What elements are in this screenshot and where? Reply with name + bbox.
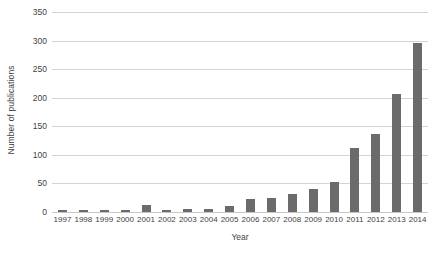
bar-slot <box>198 12 219 212</box>
bar-chart: Number of publications 05010015020025030… <box>0 0 436 258</box>
x-axis-tick-label: 2011 <box>344 214 365 228</box>
bar-slot <box>324 12 345 212</box>
bar-slot <box>219 12 240 212</box>
bar-slot <box>94 12 115 212</box>
bar <box>225 206 234 212</box>
bar-slot <box>52 12 73 212</box>
bar <box>204 209 213 212</box>
bar-slot <box>136 12 157 212</box>
x-axis-tick-label: 2004 <box>198 214 219 228</box>
x-axis-tick-label: 1998 <box>73 214 94 228</box>
bar-slot <box>365 12 386 212</box>
y-axis-title-label: Number of publications <box>6 65 16 154</box>
x-axis-tick-label: 2012 <box>365 214 386 228</box>
bar-slot <box>303 12 324 212</box>
y-axis-tick-label: 300 <box>33 36 47 45</box>
bar-slot <box>177 12 198 212</box>
bar <box>371 134 380 212</box>
x-axis-tick-label: 2008 <box>282 214 303 228</box>
x-axis-tick-label: 1999 <box>94 214 115 228</box>
y-axis-tick-label: 350 <box>33 8 47 17</box>
plot-area <box>52 12 428 212</box>
bars-container <box>52 12 428 212</box>
x-axis-tick-label: 2006 <box>240 214 261 228</box>
x-axis-title: Year <box>52 232 428 242</box>
bar-slot <box>282 12 303 212</box>
x-axis-tick-label: 2013 <box>386 214 407 228</box>
x-axis-tick-label: 2003 <box>177 214 198 228</box>
bar <box>350 148 359 212</box>
bar-slot <box>261 12 282 212</box>
bar <box>330 182 339 212</box>
bar-slot <box>115 12 136 212</box>
x-axis-tick-label: 2002 <box>156 214 177 228</box>
y-axis-title: Number of publications <box>0 0 22 220</box>
x-axis-tick-label: 2009 <box>303 214 324 228</box>
x-axis-tick-label: 2007 <box>261 214 282 228</box>
bar <box>392 94 401 212</box>
bar-slot <box>156 12 177 212</box>
bar-slot <box>344 12 365 212</box>
bar-slot <box>73 12 94 212</box>
bar <box>142 205 151 212</box>
bar <box>183 209 192 212</box>
bar <box>100 210 109 212</box>
x-axis-tick-label: 2014 <box>407 214 428 228</box>
y-axis-tick-label: 50 <box>38 179 47 188</box>
y-axis-tick-label: 200 <box>33 93 47 102</box>
y-axis-tick-labels: 050100150200250300350 <box>22 12 50 212</box>
bar-slot <box>240 12 261 212</box>
bar <box>121 210 130 212</box>
axis-baseline <box>52 212 428 213</box>
bar <box>413 43 422 212</box>
y-axis-tick-label: 250 <box>33 65 47 74</box>
bar <box>246 199 255 212</box>
bar <box>162 210 171 212</box>
x-axis-tick-label: 2010 <box>324 214 345 228</box>
bar <box>309 189 318 212</box>
bar <box>79 210 88 212</box>
x-axis-tick-label: 1997 <box>52 214 73 228</box>
x-axis-tick-label: 2000 <box>115 214 136 228</box>
x-axis-tick-label: 2001 <box>136 214 157 228</box>
bar <box>267 198 276 212</box>
y-axis-tick-label: 0 <box>42 208 47 217</box>
y-axis-tick-label: 150 <box>33 122 47 131</box>
x-axis-tick-labels: 1997199819992000200120022003200420052006… <box>52 214 428 228</box>
y-axis-tick-label: 100 <box>33 151 47 160</box>
bar <box>288 194 297 212</box>
x-axis-tick-label: 2005 <box>219 214 240 228</box>
bar-slot <box>386 12 407 212</box>
bar-slot <box>407 12 428 212</box>
bar <box>58 210 67 212</box>
